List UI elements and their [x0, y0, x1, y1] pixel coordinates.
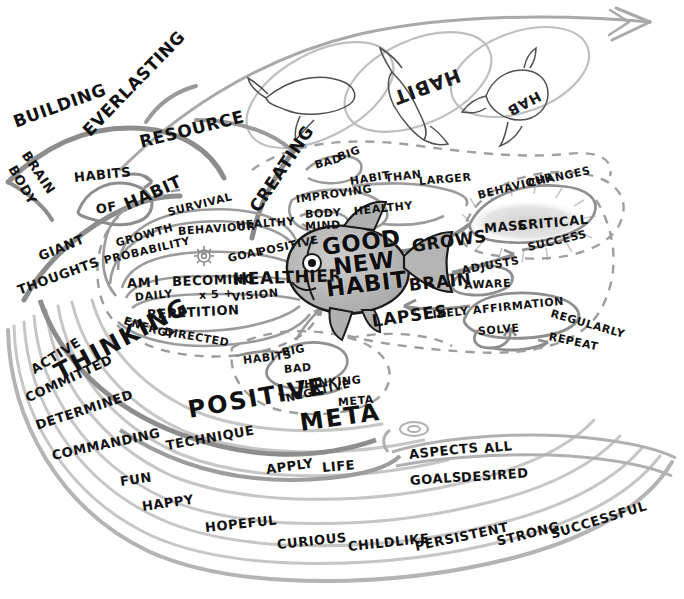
- map-label: x 5 +: [199, 288, 234, 301]
- map-label: LIFE: [321, 458, 355, 474]
- map-label: MIND: [305, 219, 341, 232]
- bubble-doodle-icon: [400, 422, 428, 436]
- map-label: ALL: [483, 439, 513, 455]
- map-label: SOLVE: [478, 322, 521, 337]
- map-label: BAD: [284, 362, 313, 375]
- map-label: I: [154, 274, 160, 287]
- center-node-label: GOOD NEW HABIT: [314, 227, 413, 301]
- map-label: AM: [127, 276, 152, 290]
- gear-doodle-icon: [194, 246, 214, 266]
- map-label: OF: [95, 199, 118, 215]
- map-label: GOALS: [410, 470, 463, 487]
